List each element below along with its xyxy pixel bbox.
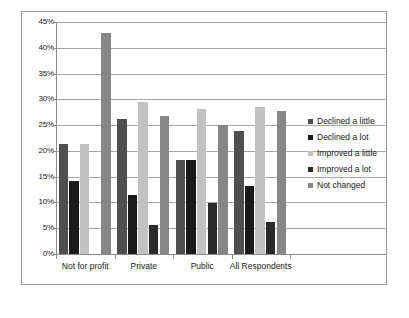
x-axis-tick-mark [232, 255, 233, 259]
x-axis-tick-mark [56, 255, 57, 259]
legend-item[interactable]: Declined a little [308, 114, 408, 129]
y-axis-tick-label: 30% [24, 95, 54, 103]
bar-group [232, 22, 291, 254]
legend-swatch-icon [308, 183, 313, 188]
bar [218, 125, 227, 254]
y-axis-tick-mark [53, 125, 57, 126]
y-axis-tick-mark [53, 22, 57, 23]
bar [138, 102, 147, 254]
bar [277, 111, 286, 254]
y-axis-tick-mark [53, 254, 57, 255]
bar [59, 144, 68, 254]
legend-item[interactable]: Not changed [308, 178, 408, 193]
legend-swatch-icon [308, 135, 313, 140]
bar [234, 131, 243, 254]
plot-area [56, 22, 290, 254]
y-axis-tick-label: 25% [24, 121, 54, 129]
y-axis-tick-mark [53, 74, 57, 75]
x-axis-tick-mark [115, 255, 116, 259]
y-axis-tick-mark [53, 99, 57, 100]
bar-group [56, 22, 115, 254]
bar [160, 116, 169, 254]
x-axis-category-label: All Respondents [222, 261, 301, 271]
legend-label: Not changed [317, 181, 365, 190]
y-axis-tick-label: 35% [24, 70, 54, 78]
legend-item[interactable]: Improved a little [308, 146, 408, 161]
y-axis-tick-label: 40% [24, 44, 54, 52]
y-axis-tick-mark [53, 48, 57, 49]
bar-group [173, 22, 232, 254]
legend-item[interactable]: Improved a lot [308, 162, 408, 177]
bar [80, 144, 89, 254]
legend-swatch-icon [308, 167, 313, 172]
bar [208, 203, 217, 254]
y-axis-tick-label: 0% [24, 250, 54, 258]
y-axis-tick-label: 15% [24, 173, 54, 181]
y-axis-tick-mark [53, 177, 57, 178]
bar [245, 186, 254, 254]
y-axis-tick-label: 5% [24, 224, 54, 232]
bar [69, 181, 78, 254]
y-axis-tick-label: 45% [24, 18, 54, 26]
x-axis-tick-mark [173, 255, 174, 259]
y-axis-tick-label: 20% [24, 147, 54, 155]
bar [176, 160, 185, 254]
legend-label: Improved a little [317, 149, 377, 158]
y-axis-tick-mark [53, 202, 57, 203]
bar [117, 119, 126, 254]
chart-frame: 0%5%10%15%20%25%30%35%40%45% Not for pro… [21, 11, 387, 285]
gridline [56, 254, 386, 255]
bar [101, 33, 110, 254]
bar [186, 160, 195, 254]
bar [197, 109, 206, 254]
bar [266, 222, 275, 254]
y-axis-tick-label: 10% [24, 198, 54, 206]
y-axis-tick-mark [53, 151, 57, 152]
bar-group [115, 22, 174, 254]
bar [149, 225, 158, 254]
chart-legend: Declined a littleDeclined a lotImproved … [308, 114, 408, 194]
legend-label: Declined a lot [317, 133, 369, 142]
x-axis-tick-mark [290, 255, 291, 259]
legend-label: Improved a lot [317, 165, 371, 174]
y-axis-labels: 0%5%10%15%20%25%30%35%40%45% [22, 12, 54, 284]
legend-swatch-icon [308, 119, 313, 124]
legend-label: Declined a little [317, 117, 375, 126]
legend-swatch-icon [308, 151, 313, 156]
bar [255, 107, 264, 254]
bar [128, 195, 137, 254]
y-axis-tick-mark [53, 228, 57, 229]
legend-item[interactable]: Declined a lot [308, 130, 408, 145]
